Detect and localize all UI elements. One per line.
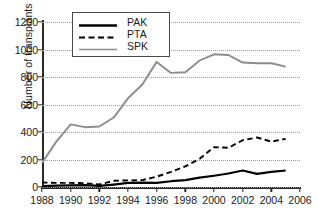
legend-item-spk[interactable]: SPK — [78, 40, 164, 52]
legend-label: SPK — [127, 41, 148, 52]
x-tick-mark — [213, 188, 214, 192]
x-axis-ticks: 1988199019921994199619982000200220042006 — [42, 188, 300, 212]
x-tick-label: 1992 — [88, 194, 111, 206]
series-line-pta — [42, 138, 286, 185]
series-line-spk — [42, 54, 286, 163]
y-tick-label: 600 — [20, 99, 38, 111]
y-tick-label: 1200 — [15, 16, 38, 28]
legend-label: PTA — [127, 29, 147, 40]
x-tick-label: 1996 — [145, 194, 168, 206]
x-tick-label: 1994 — [116, 194, 139, 206]
y-tick-label: 0 — [32, 181, 38, 193]
x-tick-mark — [99, 188, 100, 192]
x-tick-mark — [271, 188, 272, 192]
x-tick-mark — [185, 188, 186, 192]
x-tick-label: 1998 — [174, 194, 197, 206]
x-tick-label: 2006 — [288, 194, 311, 206]
y-tick-label: 1000 — [15, 44, 38, 56]
legend-swatch-icon — [78, 29, 118, 40]
chart-legend: PAKPTASPK — [72, 12, 170, 57]
x-tick-mark — [299, 188, 300, 192]
x-tick-mark — [242, 188, 243, 192]
x-tick-label: 2004 — [260, 194, 283, 206]
y-tick-label: 400 — [20, 126, 38, 138]
x-tick-mark — [41, 188, 42, 192]
legend-swatch-icon — [78, 17, 118, 28]
legend-item-pak[interactable]: PAK — [78, 16, 164, 28]
x-tick-mark — [127, 188, 128, 192]
legend-item-pta[interactable]: PTA — [78, 28, 164, 40]
x-tick-label: 1988 — [30, 194, 53, 206]
chart-figure: Number of transplants 020040060080010001… — [0, 0, 318, 212]
x-tick-label: 2000 — [202, 194, 225, 206]
x-tick-label: 2002 — [231, 194, 254, 206]
y-tick-label: 200 — [20, 154, 38, 166]
x-tick-mark — [156, 188, 157, 192]
y-tick-label: 800 — [20, 71, 38, 83]
legend-swatch-icon — [78, 41, 118, 52]
x-tick-label: 1990 — [59, 194, 82, 206]
x-tick-mark — [70, 188, 71, 192]
legend-label: PAK — [127, 17, 147, 28]
